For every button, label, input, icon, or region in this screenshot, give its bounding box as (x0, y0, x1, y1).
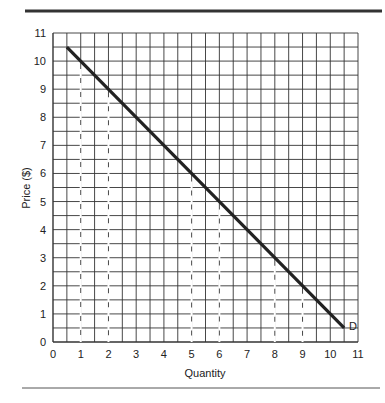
y-tick-label: 3 (40, 252, 46, 264)
y-tick-labels: 01234567891011 (34, 27, 46, 348)
x-axis-title: Quantity (185, 367, 226, 379)
curve-label-d: D (349, 320, 357, 332)
x-tick-label: 2 (105, 348, 111, 360)
y-axis-title: Price ($) (20, 167, 32, 209)
y-tick-label: 8 (40, 111, 46, 123)
x-tick-label: 9 (299, 348, 305, 360)
x-tick-label: 5 (189, 348, 195, 360)
x-tick-label: 0 (50, 348, 56, 360)
x-tick-label: 1 (78, 348, 84, 360)
x-tick-labels: 01234567891011 (50, 348, 364, 360)
y-tick-label: 4 (40, 224, 46, 236)
y-tick-label: 9 (40, 83, 46, 95)
y-tick-label: 2 (40, 280, 46, 292)
x-tick-label: 6 (216, 348, 222, 360)
y-tick-label: 5 (40, 196, 46, 208)
x-tick-label: 3 (133, 348, 139, 360)
x-tick-label: 7 (244, 348, 250, 360)
x-tick-label: 8 (272, 348, 278, 360)
y-tick-label: 7 (40, 139, 46, 151)
x-tick-label: 4 (161, 348, 167, 360)
y-tick-label: 6 (40, 167, 46, 179)
y-tick-label: 10 (34, 55, 46, 67)
y-tick-label: 1 (40, 308, 46, 320)
x-tick-label: 11 (352, 348, 363, 360)
y-tick-label: 0 (40, 336, 46, 348)
demand-curve: D (67, 47, 357, 332)
demand-chart: 01234567891011 01234567891011 D Quantity… (0, 0, 385, 403)
y-tick-label: 11 (35, 27, 46, 39)
x-tick-label: 10 (324, 348, 336, 360)
